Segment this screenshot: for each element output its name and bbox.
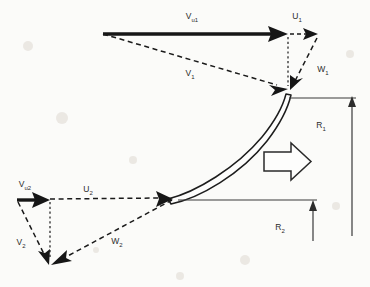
vector-vu1-arrowhead [268,26,288,42]
label-vu1: Vu1 [186,11,199,23]
vector-w1-line [295,38,317,81]
vector-w2-arrowhead [51,250,72,265]
label-v1: V1 [185,68,195,80]
label-vu2: Vu2 [19,179,32,191]
label-u2: U2 [83,184,93,196]
vector-w2-line [64,200,172,258]
label-u1: U1 [292,11,302,23]
vector-u2-line [50,198,160,199]
label-r2: R2 [275,222,285,234]
label-w1: W1 [317,64,329,76]
block-arrow-right-icon [264,143,311,180]
r2-arrowhead [309,200,317,211]
label-w2: W2 [111,236,123,248]
diagram-canvas: Vu1 U1 V1 W1 Vu2 U2 V2 W2 R1 R2 [0,0,370,287]
velocity-triangle-diagram: Vu1 U1 V1 W1 Vu2 U2 V2 W2 R1 R2 [0,0,370,287]
curved-blade-icon [168,94,291,204]
label-v2: V2 [16,237,26,249]
vector-v2-arrowhead [38,249,50,265]
label-r1: R1 [316,120,326,132]
